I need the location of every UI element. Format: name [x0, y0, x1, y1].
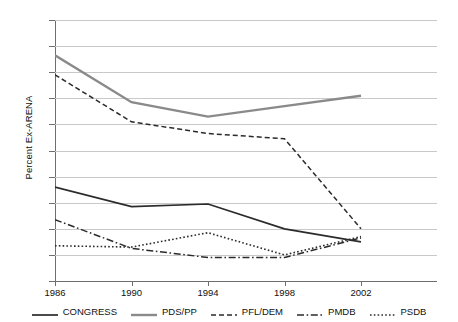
legend-item-pmdb[interactable]: PMDB — [297, 306, 355, 317]
series-line-pmdb — [55, 220, 361, 258]
x-axis-tick-mark — [285, 281, 286, 286]
legend-item-psdb[interactable]: PSDB — [370, 306, 427, 317]
x-axis-tick-label: 1994 — [178, 287, 238, 298]
line-chart: Percent Ex-ARENA 1009080706050403020100 … — [0, 0, 458, 322]
legend-label: PSDB — [401, 306, 427, 317]
x-axis-tick-label: 1986 — [25, 287, 85, 298]
x-axis-tick-mark — [55, 281, 56, 286]
series-lines — [55, 20, 437, 281]
legend-item-congress[interactable]: CONGRESS — [32, 306, 117, 317]
x-axis-tick-label: 1998 — [255, 287, 315, 298]
legend-item-pfl-dem[interactable]: PFL/DEM — [211, 306, 283, 317]
legend-label: PMDB — [328, 306, 355, 317]
legend-swatch-icon — [131, 306, 157, 316]
legend-label: PDS/PP — [162, 306, 197, 317]
legend-swatch-icon — [370, 306, 396, 316]
series-line-pfl-dem — [55, 75, 361, 229]
series-line-congress — [55, 187, 361, 242]
legend-swatch-icon — [32, 306, 58, 316]
legend-swatch-icon — [211, 306, 237, 316]
series-line-pds-pp — [55, 55, 361, 116]
x-axis-tick-mark — [208, 281, 209, 286]
gridline — [55, 281, 437, 282]
x-axis-tick-mark — [361, 281, 362, 286]
series-line-psdb — [55, 233, 361, 255]
legend-swatch-icon — [297, 306, 323, 316]
x-axis-tick-mark — [132, 281, 133, 286]
legend-label: PFL/DEM — [242, 306, 283, 317]
x-axis-tick-label: 2002 — [331, 287, 391, 298]
legend-item-pds-pp[interactable]: PDS/PP — [131, 306, 197, 317]
legend-label: CONGRESS — [63, 306, 117, 317]
y-axis-title: Percent Ex-ARENA — [23, 63, 34, 213]
chart-legend: CONGRESSPDS/PPPFL/DEMPMDBPSDB — [0, 303, 458, 319]
x-axis-tick-label: 1990 — [102, 287, 162, 298]
